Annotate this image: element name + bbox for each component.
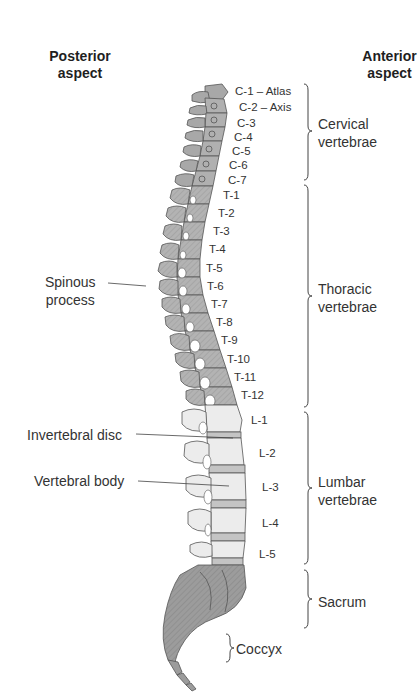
label-c2: C-2 – Axis	[239, 101, 291, 114]
region-thoracic-line2: vertebrae	[318, 298, 377, 316]
region-thoracic: Thoracic vertebrae	[318, 280, 377, 316]
region-coccyx-line1: Coccyx	[236, 640, 282, 658]
label-t7: T-7	[211, 298, 228, 311]
label-t10: T-10	[227, 353, 250, 366]
spine-illustration	[0, 0, 419, 695]
label-l4: L-4	[262, 517, 279, 530]
label-t1: T-1	[223, 189, 240, 202]
label-t9: T-9	[221, 334, 238, 347]
cervical-vertebrae-shapes	[175, 84, 228, 187]
region-cervical-line1: Cervical	[318, 115, 377, 133]
label-t4: T-4	[209, 243, 226, 256]
region-lumbar-line1: Lumbar	[318, 473, 377, 491]
label-l2: L-2	[259, 447, 276, 460]
label-t2: T-2	[218, 207, 235, 220]
label-t11: T-11	[234, 371, 256, 384]
sacrum-shape	[163, 565, 246, 665]
callout-spinous-line1: Spinous	[45, 273, 96, 291]
label-t8: T-8	[216, 316, 233, 329]
label-c1: C-1 – Atlas	[235, 85, 291, 98]
label-c3: C-3	[237, 117, 256, 130]
callout-body-line1: Vertebral body	[34, 472, 124, 490]
label-t5: T-5	[206, 262, 223, 275]
region-lumbar: Lumbar vertebrae	[318, 473, 377, 509]
region-thoracic-line1: Thoracic	[318, 280, 377, 298]
label-t12: T-12	[241, 389, 264, 402]
callout-vertebral-body: Vertebral body	[34, 472, 124, 490]
region-lumbar-line2: vertebrae	[318, 491, 377, 509]
label-c7: C-7	[228, 174, 247, 187]
region-sacrum: Sacrum	[318, 593, 366, 611]
callout-intervertebral-disc: Invertebral disc	[27, 426, 122, 444]
label-t6: T-6	[207, 280, 224, 293]
region-sacrum-line1: Sacrum	[318, 593, 366, 611]
label-t3: T-3	[213, 225, 230, 238]
label-c6: C-6	[229, 159, 248, 172]
callout-spinous-line2: process	[45, 291, 96, 309]
label-c5: C-5	[232, 145, 251, 158]
label-l5: L-5	[259, 548, 276, 561]
label-l1: L-1	[251, 414, 268, 427]
callout-disc-line1: Invertebral disc	[27, 426, 122, 444]
label-c4: C-4	[234, 131, 253, 144]
coccyx-shape	[168, 660, 196, 691]
label-l3: L-3	[262, 481, 279, 494]
callout-spinous-process: Spinous process	[45, 273, 96, 309]
region-cervical: Cervical vertebrae	[318, 115, 377, 151]
region-cervical-line2: vertebrae	[318, 133, 377, 151]
region-coccyx: Coccyx	[236, 640, 282, 658]
